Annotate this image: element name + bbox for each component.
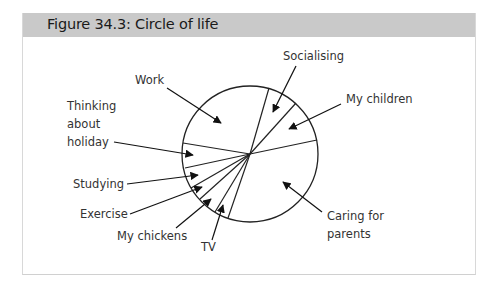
arrow-thinking bbox=[114, 142, 193, 155]
arrow-caring bbox=[283, 182, 322, 212]
label-caring-for-parents: Caring for parents bbox=[327, 209, 388, 241]
label-thinking-about-holiday: Thinking about holiday bbox=[66, 99, 120, 149]
arrow-socialising bbox=[273, 66, 296, 112]
label-exercise: Exercise bbox=[80, 207, 128, 221]
label-my-children: My children bbox=[346, 92, 413, 106]
arrow-children bbox=[289, 104, 341, 129]
arrow-work bbox=[167, 88, 221, 123]
label-tv: TV bbox=[200, 240, 216, 254]
arrow-exercise bbox=[130, 187, 202, 214]
pointer-arrows bbox=[114, 66, 341, 240]
arrow-chickens bbox=[176, 199, 211, 228]
label-my-chickens: My chickens bbox=[117, 229, 187, 243]
circle-of-life-diagram: Work Thinking about holiday Studying Exe… bbox=[0, 0, 499, 291]
arrow-tv bbox=[212, 205, 223, 240]
label-studying: Studying bbox=[73, 177, 124, 191]
pie-boundaries bbox=[183, 88, 317, 218]
label-work: Work bbox=[135, 73, 164, 87]
label-socialising: Socialising bbox=[283, 49, 344, 63]
